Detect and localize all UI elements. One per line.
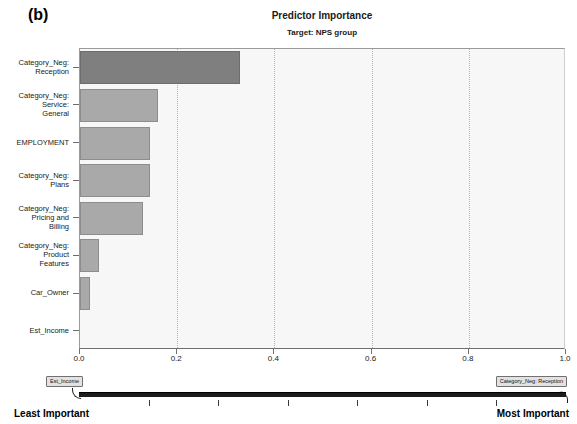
bar[interactable] bbox=[80, 127, 150, 160]
slider-left-endcap bbox=[72, 388, 81, 399]
slider-tick bbox=[357, 400, 358, 406]
bar-row bbox=[80, 164, 564, 197]
importance-slider[interactable]: Est_Income Category_Neg: Reception Least… bbox=[0, 372, 577, 424]
x-axis-tick-labels: 0.00.20.40.60.81.0 bbox=[79, 354, 565, 368]
y-axis-label: Category_Neg: Reception bbox=[19, 58, 69, 76]
chart-title: Predictor Importance bbox=[79, 10, 565, 21]
bar[interactable] bbox=[80, 202, 143, 235]
slider-track[interactable] bbox=[79, 392, 566, 397]
y-axis-label: Est_Income bbox=[29, 326, 69, 335]
bar-row bbox=[80, 202, 564, 235]
bar[interactable] bbox=[80, 277, 90, 310]
bar[interactable] bbox=[80, 239, 99, 272]
bar-row bbox=[80, 315, 564, 348]
plot-area bbox=[79, 48, 565, 349]
bar[interactable] bbox=[80, 51, 240, 84]
slider-tick bbox=[427, 400, 428, 406]
bar-row bbox=[80, 277, 564, 310]
y-axis-label: Category_Neg: Product Features bbox=[19, 241, 69, 268]
x-axis-tick-label: 0.2 bbox=[171, 354, 182, 363]
least-important-label: Least Important bbox=[14, 408, 89, 419]
x-axis-tick-label: 0.6 bbox=[365, 354, 376, 363]
y-axis-labels: Category_Neg: ReceptionCategory_Neg: Ser… bbox=[0, 48, 79, 349]
y-axis-label: Car_Owner bbox=[31, 288, 69, 297]
slider-handle-right-label[interactable]: Category_Neg: Reception bbox=[496, 376, 567, 387]
y-axis-label: EMPLOYMENT bbox=[16, 138, 69, 147]
bar-row bbox=[80, 239, 564, 272]
chart-subtitle: Target: NPS group bbox=[79, 28, 565, 37]
slider-handle-left-label[interactable]: Est_Income bbox=[46, 376, 83, 387]
slider-tick bbox=[149, 400, 150, 406]
y-axis-label: Category_Neg: Pricing and Billing bbox=[19, 204, 69, 231]
bar-row bbox=[80, 89, 564, 122]
y-axis-label: Category_Neg: Plans bbox=[19, 171, 69, 189]
bar-row bbox=[80, 51, 564, 84]
x-axis-tick-label: 0.0 bbox=[73, 354, 84, 363]
most-important-label: Most Important bbox=[497, 408, 569, 419]
y-axis-label: Category_Neg: Service: General bbox=[19, 91, 69, 118]
slider-tick bbox=[496, 400, 497, 406]
bar[interactable] bbox=[80, 164, 150, 197]
bars-layer bbox=[80, 49, 564, 348]
x-axis-tick-label: 0.8 bbox=[462, 354, 473, 363]
bar-row bbox=[80, 127, 564, 160]
slider-tick bbox=[288, 400, 289, 406]
slider-ticks bbox=[79, 400, 566, 408]
slider-tick bbox=[218, 400, 219, 406]
panel-label: (b) bbox=[28, 6, 48, 24]
bar[interactable] bbox=[80, 89, 158, 122]
predictor-importance-chart: (b) Predictor Importance Target: NPS gro… bbox=[0, 0, 577, 424]
x-axis-tick-label: 0.4 bbox=[268, 354, 279, 363]
x-axis-tick-label: 1.0 bbox=[559, 354, 570, 363]
